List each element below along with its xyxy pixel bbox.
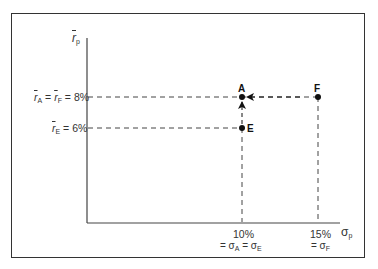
point-e: [239, 125, 245, 131]
y-tick-6pct: rE = 6%: [52, 123, 87, 135]
point-f-label: F: [314, 84, 320, 94]
y-axis-label: rp: [72, 32, 80, 45]
point-f: [315, 94, 321, 100]
x-tick-15pct-sub: = σF: [311, 241, 330, 252]
x-tick-10pct-sub: = σA = σE: [220, 241, 262, 252]
point-e-label: E: [247, 124, 254, 134]
point-a: [239, 94, 245, 100]
x-tick-10pct: 10%: [233, 229, 254, 240]
x-tick-15pct: 15%: [310, 229, 331, 240]
point-a-label: A: [238, 84, 245, 94]
y-tick-8pct: rA = rF = 8%: [34, 92, 89, 104]
x-axis-label: σp: [341, 226, 352, 239]
